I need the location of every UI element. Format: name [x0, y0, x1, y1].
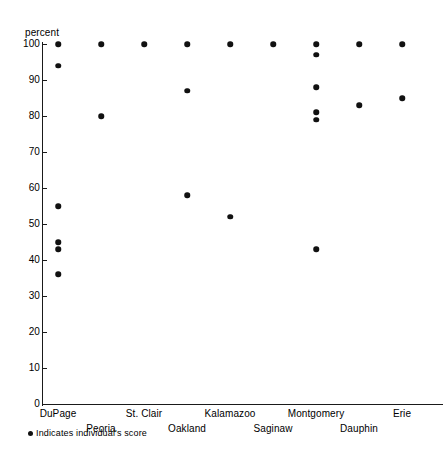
y-axis-title: percent: [25, 27, 59, 38]
y-axis-tick-label: 60: [0, 183, 40, 193]
x-axis-label-oakland: Oakland: [168, 423, 206, 434]
y-axis-tick-label: 80: [0, 111, 40, 121]
data-point: [55, 41, 61, 47]
data-point: [55, 246, 61, 252]
data-point: [227, 214, 233, 220]
data-point: [270, 41, 276, 47]
y-axis-tick-label: 10: [0, 363, 40, 373]
data-point: [55, 63, 61, 69]
y-axis-tick-mark: [43, 404, 47, 405]
scatter-chart: percent 1009080706050403020100 DuPagePeo…: [0, 0, 447, 455]
y-axis-tick-mark: [43, 188, 47, 189]
data-point: [98, 113, 104, 119]
x-axis-label-st-clair: St. Clair: [126, 408, 162, 419]
y-axis-tick-label: 40: [0, 255, 40, 265]
data-point: [313, 246, 319, 252]
y-axis-tick-mark: [43, 116, 47, 117]
data-point: [313, 84, 319, 90]
data-point: [55, 203, 61, 209]
y-axis-tick-mark: [43, 368, 47, 369]
y-axis-tick-label: 0: [0, 399, 40, 409]
data-point: [98, 41, 104, 47]
x-axis-label-dupage: DuPage: [40, 408, 77, 419]
y-axis-tick-mark: [43, 296, 47, 297]
y-axis-tick-mark: [43, 224, 47, 225]
legend-label: Indicates individual's score: [36, 428, 147, 439]
data-point: [313, 52, 319, 58]
y-axis-tick-label: 20: [0, 327, 40, 337]
legend: Indicates individual's score: [28, 428, 147, 439]
data-point: [55, 272, 61, 278]
x-axis-label-montgomery: Montgomery: [288, 408, 345, 419]
data-point: [184, 192, 190, 198]
y-axis-tick-label: 30: [0, 291, 40, 301]
data-point: [55, 239, 61, 245]
data-point: [141, 41, 147, 47]
y-axis-tick-mark: [43, 44, 47, 45]
y-axis-tick-label: 50: [0, 219, 40, 229]
y-axis-tick-label: 90: [0, 75, 40, 85]
y-axis-tick-label: 70: [0, 147, 40, 157]
data-point: [313, 41, 319, 47]
y-axis-tick-mark: [43, 152, 47, 153]
data-point: [313, 110, 319, 116]
data-point: [227, 41, 233, 47]
data-point: [356, 41, 362, 47]
data-point: [356, 102, 362, 108]
data-point: [313, 117, 319, 123]
x-axis-line: [42, 404, 443, 405]
x-axis-label-erie: Erie: [393, 408, 411, 419]
x-axis-label-dauphin: Dauphin: [340, 423, 378, 434]
x-axis-label-kalamazoo: Kalamazoo: [205, 408, 256, 419]
x-axis-label-saginaw: Saginaw: [253, 423, 292, 434]
data-point: [184, 41, 190, 47]
y-axis-tick-mark: [43, 332, 47, 333]
legend-dot-icon: [28, 431, 33, 436]
data-point: [184, 88, 190, 94]
y-axis-tick-mark: [43, 260, 47, 261]
y-axis-tick-mark: [43, 80, 47, 81]
y-axis-tick-label: 100: [0, 39, 40, 49]
data-point: [399, 41, 405, 47]
data-point: [399, 95, 405, 101]
